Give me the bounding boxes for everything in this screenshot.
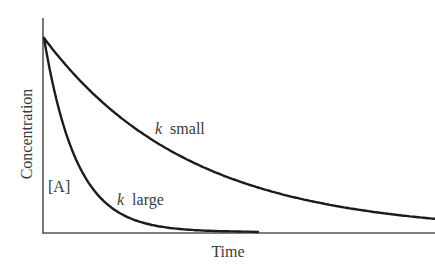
curve-k-small: [44, 38, 435, 219]
k-small-label: k small: [155, 120, 205, 137]
species-label: [A]: [48, 178, 70, 195]
k-symbol: k: [155, 120, 163, 137]
y-axis-label: Concentration: [18, 89, 35, 180]
large-text: large: [132, 191, 164, 209]
decay-chart: Concentration Time [A] k small k large: [0, 0, 435, 275]
x-axis-label: Time: [211, 243, 244, 260]
small-text: small: [170, 120, 205, 137]
k-symbol: k: [117, 191, 125, 208]
k-large-label: k large: [117, 191, 164, 209]
